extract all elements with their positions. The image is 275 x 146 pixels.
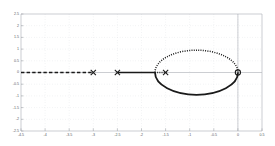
y-tick-label: 1.5 bbox=[14, 35, 19, 39]
y-tick-label: 0.5 bbox=[14, 59, 19, 63]
x-tick-label: -1 bbox=[188, 133, 191, 137]
y-tick-label: -1.5 bbox=[13, 106, 19, 110]
y-tick-label: -0.5 bbox=[13, 82, 19, 86]
x-tick-label: 0 bbox=[237, 133, 239, 137]
y-tick-label: 1 bbox=[17, 47, 19, 51]
y-tick-label: -2 bbox=[16, 117, 19, 121]
x-tick-label: -4.5 bbox=[18, 133, 24, 137]
y-axis-tick-labels: 2.5 2 1.5 1 0.5 0 -0.5 -1 -1.5 -2 -2.5 bbox=[13, 12, 19, 133]
x-tick-label: -1.5 bbox=[162, 133, 168, 137]
x-tick-label: -0.5 bbox=[211, 133, 217, 137]
y-tick-label: -1 bbox=[16, 94, 19, 98]
x-tick-label: -3 bbox=[92, 133, 95, 137]
x-tick-label: -2 bbox=[140, 133, 143, 137]
plot-svg: 2.5 2 1.5 1 0.5 0 -0.5 -1 -1.5 -2 -2.5 -… bbox=[0, 0, 275, 146]
y-tick-label: 2 bbox=[17, 24, 19, 28]
y-tick-label: 2.5 bbox=[14, 12, 19, 16]
x-tick-label: -3.5 bbox=[66, 133, 72, 137]
x-tick-label: -2.5 bbox=[114, 133, 120, 137]
x-axis-tick-labels: -4.5 -4 -3.5 -3 -2.5 -2 -1.5 -1 -0.5 0 0… bbox=[18, 133, 265, 137]
x-tick-label: -4 bbox=[43, 133, 46, 137]
root-locus-plot: 2.5 2 1.5 1 0.5 0 -0.5 -1 -1.5 -2 -2.5 -… bbox=[0, 0, 275, 146]
x-tick-label: 0.5 bbox=[260, 133, 265, 137]
y-tick-label: 0 bbox=[17, 70, 19, 74]
